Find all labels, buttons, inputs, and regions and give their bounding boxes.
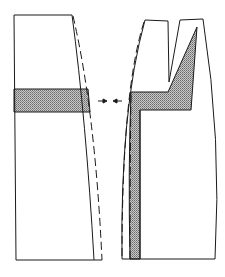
arrow-right-icon (103, 99, 107, 103)
diagram-canvas (0, 0, 225, 277)
gap-arrows (98, 99, 122, 103)
left-block (14, 15, 102, 260)
right-shaded-layer (129, 27, 197, 259)
left-shaded-band (14, 89, 90, 112)
left-block-outline (14, 15, 94, 260)
left-dashed-profile (73, 16, 102, 260)
arrow-left-icon (113, 99, 117, 103)
right-block (122, 19, 217, 259)
